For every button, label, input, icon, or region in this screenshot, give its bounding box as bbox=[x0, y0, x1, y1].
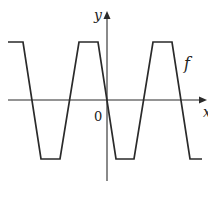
function-graph: y x 0 f bbox=[0, 0, 208, 199]
y-axis-label: y bbox=[93, 7, 103, 23]
curve-label: f bbox=[183, 54, 193, 73]
y-axis-arrow-icon bbox=[104, 11, 111, 19]
origin-label: 0 bbox=[94, 109, 102, 124]
x-axis-arrow-icon bbox=[199, 97, 207, 104]
x-axis-label: x bbox=[203, 104, 208, 120]
